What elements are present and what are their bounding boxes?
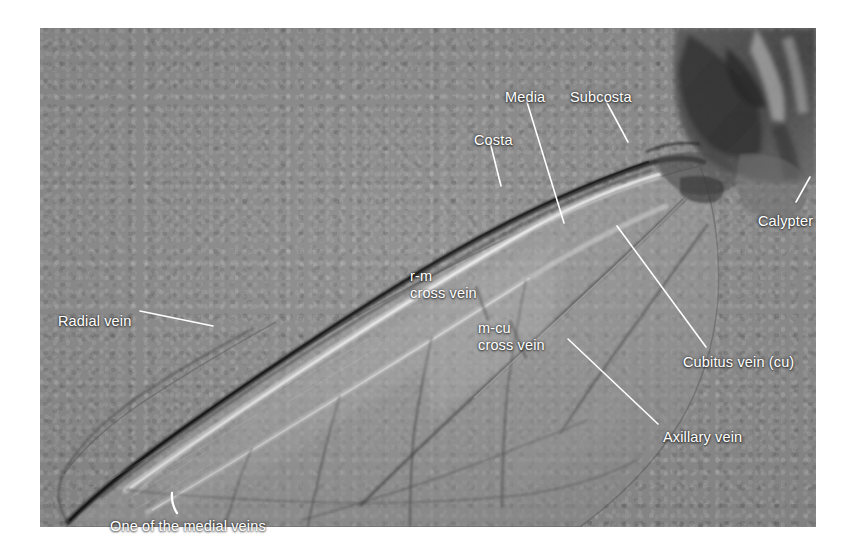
label-mcu-cross-vein: m-cu cross vein <box>478 320 545 354</box>
label-calypter: Calypter <box>758 213 813 230</box>
label-subcosta: Subcosta <box>570 89 632 106</box>
label-axillary-vein: Axillary vein <box>663 429 742 446</box>
label-medial-veins: One of the medial veins <box>110 518 266 535</box>
label-media: Media <box>505 89 545 106</box>
label-radial-vein: Radial vein <box>58 313 131 330</box>
label-costa: Costa <box>474 132 513 149</box>
label-rm-cross-vein: r-m cross vein <box>410 268 477 302</box>
figure-container: Costa Media Subcosta Calypter Cubitus ve… <box>0 0 858 558</box>
label-cubitus-vein: Cubitus vein (cu) <box>683 354 794 371</box>
